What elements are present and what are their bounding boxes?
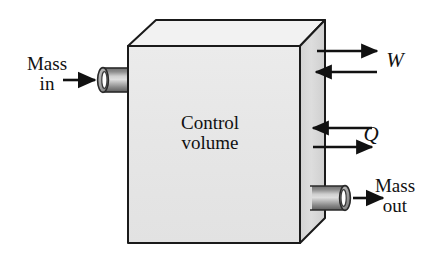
- mass-in-label: Mass in: [10, 54, 84, 94]
- work-symbol-label: W: [383, 49, 407, 71]
- heat-symbol-label: Q: [360, 123, 382, 145]
- box-top-face: [128, 20, 325, 46]
- outlet-pipe: [310, 186, 350, 211]
- mass-out-label: Mass out: [364, 176, 426, 216]
- control-volume-label: Control volume: [148, 113, 272, 153]
- control-volume-figure: Mass in Control volume W Q Mass out: [0, 0, 429, 268]
